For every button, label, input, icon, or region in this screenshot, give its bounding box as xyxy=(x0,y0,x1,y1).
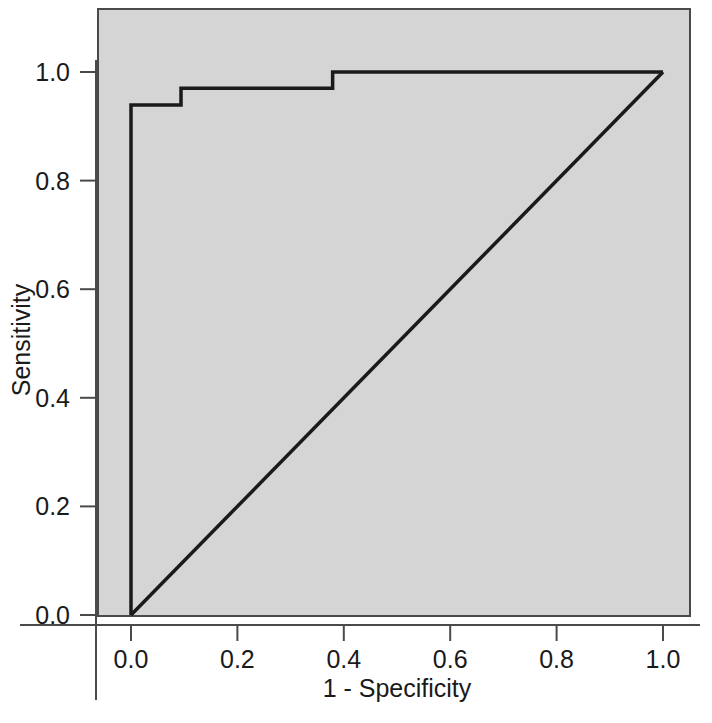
plot-panel-background xyxy=(98,9,690,616)
y-tick-label: 0.8 xyxy=(35,167,70,195)
y-tick-label: 0.6 xyxy=(35,275,70,303)
x-tick-label: 1.0 xyxy=(646,645,681,673)
x-tick-label: 0.4 xyxy=(326,645,361,673)
x-tick-label: 0.0 xyxy=(114,645,149,673)
roc-plot-svg: 0.00.20.40.60.81.0 0.00.20.40.60.81.0 1 … xyxy=(0,0,712,723)
y-axis-ticks xyxy=(80,72,96,615)
x-axis-tick-labels: 0.00.20.40.60.81.0 xyxy=(114,645,681,673)
x-tick-label: 0.6 xyxy=(433,645,468,673)
y-tick-label: 0.4 xyxy=(35,384,70,412)
x-tick-label: 0.2 xyxy=(220,645,255,673)
y-tick-label: 0.0 xyxy=(35,601,70,629)
y-tick-label: 0.2 xyxy=(35,492,70,520)
y-axis-title: Sensitivity xyxy=(7,283,35,396)
y-tick-label: 1.0 xyxy=(35,58,70,86)
y-axis-tick-labels: 0.00.20.40.60.81.0 xyxy=(35,58,70,629)
x-axis-title: 1 - Specificity xyxy=(323,674,472,702)
x-tick-label: 0.8 xyxy=(539,645,574,673)
x-axis-ticks xyxy=(131,625,663,641)
roc-chart-figure: 0.00.20.40.60.81.0 0.00.20.40.60.81.0 1 … xyxy=(0,0,712,723)
